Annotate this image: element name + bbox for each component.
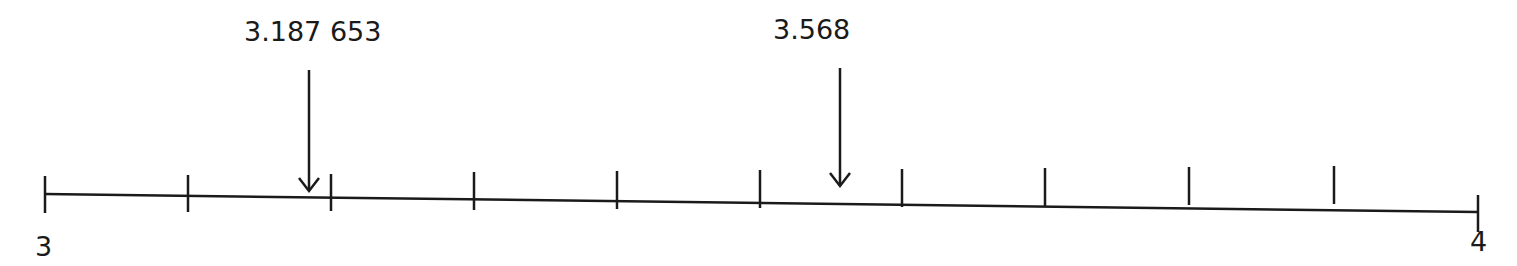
arrow-down-icon-marker1	[299, 70, 319, 191]
arrow-down-icon-marker2	[830, 68, 850, 186]
number-line-diagram	[0, 0, 1517, 266]
number-line-axis	[45, 194, 1478, 212]
marker1-label: 3.187 653	[244, 18, 381, 45]
marker2-label: 3.568	[773, 16, 850, 43]
end-label: 4	[1470, 228, 1487, 255]
start-label: 3	[35, 233, 52, 260]
